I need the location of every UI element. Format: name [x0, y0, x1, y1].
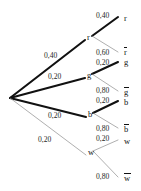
- node-label-r: r: [87, 33, 90, 42]
- prob-label-b: 0,20: [48, 112, 61, 120]
- prob-label-r-r: 0,40: [96, 12, 109, 20]
- prob-label-w-w: 0,20: [96, 135, 109, 143]
- leaf-label-r-rbar: r: [124, 48, 127, 57]
- leaf-label-w-wbar: w: [124, 174, 130, 183]
- prob-label-g: 0,20: [48, 73, 61, 81]
- leaf-label-g-g: g: [124, 58, 128, 67]
- probability-tree-diagram: r0,40r0,40r0,60g0,20g0,20g0,80b0,20b0,20…: [0, 0, 141, 191]
- node-label-b: b: [88, 110, 92, 119]
- prob-label-b-bbar: 0,80: [96, 125, 109, 133]
- node-label-w: w: [88, 148, 94, 157]
- leaf-label-b-b: b: [124, 98, 128, 107]
- prob-label-g-gbar: 0,80: [96, 87, 109, 95]
- leaf-label-g-gbar-overline-glyph: g: [124, 88, 128, 97]
- prob-label-r-rbar: 0,60: [96, 49, 109, 57]
- prob-label-w: 0,20: [38, 136, 51, 144]
- leaf-label-g-gbar: g: [124, 88, 128, 97]
- node-label-g: g: [87, 71, 91, 80]
- tree-edges-svg: [0, 0, 141, 191]
- prob-label-b-b: 0,20: [96, 97, 109, 105]
- prob-label-r: 0,40: [44, 52, 57, 60]
- prob-label-g-g: 0,20: [96, 59, 109, 67]
- leaf-label-b-bbar-overline-glyph: b: [124, 125, 128, 134]
- leaf-label-w-wbar-overline-glyph: w: [124, 174, 130, 183]
- leaf-label-b-bbar: b: [124, 125, 128, 134]
- leaf-label-r-rbar-overline-glyph: r: [124, 48, 127, 57]
- leaf-label-w-w: w: [124, 137, 130, 146]
- edge-root-to-r: [10, 40, 85, 98]
- prob-label-w-wbar: 0,80: [96, 173, 109, 181]
- leaf-label-r-r: r: [124, 14, 127, 23]
